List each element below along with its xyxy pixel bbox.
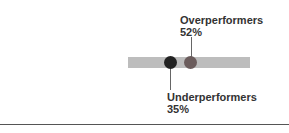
overperformers-value: 52% [180, 26, 263, 38]
underperformers-leader-line [170, 68, 171, 90]
underperformers-name: Underperformers [167, 91, 257, 103]
overperformers-label: Overperformers 52% [180, 14, 263, 38]
underperformers-label: Underperformers 35% [167, 91, 257, 115]
underperformers-value: 35% [167, 103, 257, 115]
underperformers-dot [164, 56, 177, 69]
bottom-divider [0, 124, 289, 125]
overperformers-name: Overperformers [180, 14, 263, 26]
overperformers-dot [184, 56, 197, 69]
overperformers-leader-line [191, 37, 192, 57]
